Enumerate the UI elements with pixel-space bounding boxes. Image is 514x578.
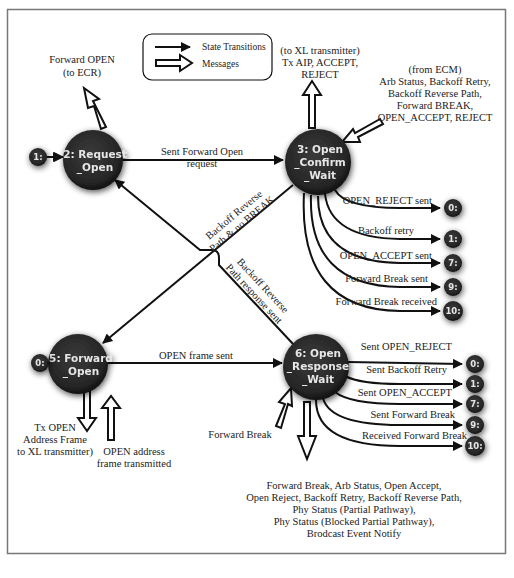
response-exit-target-7[interactable]: 7: — [466, 395, 484, 413]
label-msg-forward-open-2: (to ECR) — [63, 67, 102, 79]
svg-text:_Open: _Open — [77, 161, 113, 174]
confirm-exit-nodes: 0: 1: 7: 9: 10: — [443, 199, 463, 321]
label-msg-response-out-2: Open Reject, Backoff Retry, Backoff Reve… — [246, 492, 462, 503]
label-response-exit-0: Sent OPEN_REJECT — [361, 341, 453, 352]
svg-text:9:: 9: — [470, 420, 479, 430]
label-response-exit-3: Sent Forward Break — [370, 409, 455, 420]
svg-text:10:: 10: — [467, 441, 482, 451]
label-msg-confirm-out: (to XL transmitter) — [280, 45, 360, 57]
svg-text:0:: 0: — [35, 358, 44, 368]
label-confirm-exit-3: Forward Break sent — [345, 273, 428, 284]
response-exit-nodes: 0: 1: 7: 9: 10: — [465, 355, 485, 456]
label-confirm-exit-0: OPEN_REJECT sent — [343, 195, 432, 206]
label-msg-forward-out: Tx OPEN — [34, 422, 76, 433]
svg-text:_Confirm: _Confirm — [294, 156, 346, 169]
svg-text:1:: 1: — [448, 234, 457, 244]
label-sent-forward-open: Sent Forward Open — [161, 146, 244, 157]
label-msg-confirm-in-3: Backoff Reverse Path, — [388, 88, 482, 99]
svg-text:1:: 1: — [470, 379, 479, 389]
message-arrow-forward-out — [78, 389, 96, 431]
message-arrow-confirm-out — [303, 81, 321, 128]
label-confirm-exit-1: Backoff retry — [358, 225, 415, 236]
svg-text:_Wait: _Wait — [302, 373, 334, 386]
svg-text:6: Open: 6: Open — [295, 347, 341, 359]
label-msg-forward-in-2: frame transmitted — [97, 458, 172, 469]
label-confirm-exit-4: Forward Break received — [336, 296, 438, 307]
label-msg-confirm-out-3: REJECT — [301, 69, 339, 80]
label-response-exit-2: Sent OPEN_ACCEPT — [358, 387, 453, 398]
label-response-exit-1: Sent Backoff Retry — [366, 364, 448, 375]
message-arrow-forward-open-out — [84, 88, 106, 129]
confirm-exit-target-1[interactable]: 1: — [444, 230, 462, 248]
message-arrow-response-out — [298, 402, 316, 459]
svg-text:10:: 10: — [445, 306, 460, 316]
label-msg-forward-out-2: Address Frame — [23, 434, 87, 445]
svg-text:7:: 7: — [448, 258, 457, 268]
svg-text:1:: 1: — [33, 152, 42, 162]
label-msg-response-out-5: Brodcast Event Notify — [307, 528, 402, 539]
state-open-confirm-wait[interactable]: 3: Open _Confirm _Wait — [285, 129, 351, 195]
label-response-exit-4: Received Forward Break — [362, 430, 468, 441]
label-msg-confirm-out-2: Tx AIP, ACCEPT, — [282, 57, 358, 68]
svg-text:9:: 9: — [448, 282, 457, 292]
message-arrow-forward-in — [102, 396, 120, 440]
label-msg-forward-out-3: to XL transmitter) — [17, 446, 94, 458]
entry-state-1[interactable]: 1: — [29, 148, 47, 166]
svg-text:0:: 0: — [448, 203, 457, 213]
label-msg-confirm-in-5: OPEN_ACCEPT, REJECT — [378, 112, 493, 123]
response-exit-target-10[interactable]: 10: — [465, 436, 485, 456]
svg-text:_Wait: _Wait — [304, 169, 336, 182]
legend: State Transitions Messages — [143, 34, 272, 80]
confirm-exit-target-10[interactable]: 10: — [443, 301, 463, 321]
legend-state-transitions: State Transitions — [202, 42, 266, 52]
label-msg-confirm-in-4: Forward BREAK, — [397, 100, 473, 111]
entry-state-0[interactable]: 0: — [31, 354, 49, 372]
response-exit-target-9[interactable]: 9: — [466, 416, 484, 434]
legend-messages: Messages — [202, 59, 239, 69]
label-confirm-exit-2: OPEN_ACCEPT sent — [340, 250, 432, 261]
svg-text:7:: 7: — [470, 399, 479, 409]
label-msg-confirm-in: (from ECM) — [409, 64, 462, 76]
label-msg-response-out: Forward Break, Arb Status, Open Accept, — [267, 480, 442, 491]
confirm-exit-target-9[interactable]: 9: — [444, 278, 462, 296]
svg-text:3: Open: 3: Open — [297, 143, 343, 155]
response-exit-target-0[interactable]: 0: — [466, 355, 484, 373]
response-exit-target-1[interactable]: 1: — [466, 375, 484, 393]
svg-text:_Response: _Response — [287, 360, 349, 373]
svg-text:5: Forward: 5: Forward — [49, 352, 113, 364]
label-msg-response-out-3: Phy Status (Partial Pathway), — [292, 504, 415, 516]
label-sent-forward-open-2: request — [187, 158, 217, 169]
label-msg-response-in: Forward Break — [208, 429, 272, 440]
state-diagram: State Transitions Messages — [0, 0, 514, 578]
state-open-response-wait[interactable]: 6: Open _Response _Wait — [283, 334, 349, 400]
message-arrow-response-in — [276, 388, 292, 428]
label-msg-forward-open: Forward OPEN — [49, 54, 115, 65]
label-msg-confirm-in-2: Arb Status, Backoff Retry, — [379, 76, 490, 87]
label-msg-response-out-4: Phy Status (Blocked Partial Pathway), — [274, 516, 435, 528]
svg-text:_Open: _Open — [63, 365, 99, 378]
label-msg-forward-in: OPEN address — [103, 446, 165, 457]
confirm-exit-target-7[interactable]: 7: — [444, 254, 462, 272]
confirm-exit-target-0[interactable]: 0: — [444, 199, 462, 217]
label-open-frame-sent: OPEN frame sent — [159, 350, 233, 361]
svg-text:2: Request: 2: Request — [63, 148, 127, 160]
svg-text:0:: 0: — [470, 359, 479, 369]
